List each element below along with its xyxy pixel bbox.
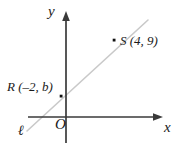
x-axis-label: x: [164, 120, 171, 135]
x-axis-arrowhead-icon: [153, 113, 163, 121]
y-axis-arrowhead-icon: [62, 11, 70, 21]
coordinate-plane-figure: y x O ℓ S (4, 9) R (–2, b): [0, 0, 180, 143]
point-label-s: S (4, 9): [120, 34, 158, 47]
point-marker-s: [113, 39, 116, 42]
line-l-label: ℓ: [18, 124, 24, 138]
figure-canvas: [0, 0, 180, 143]
origin-label: O: [55, 117, 66, 132]
point-marker-r: [60, 95, 63, 98]
y-axis-label: y: [48, 4, 55, 19]
point-label-r: R (–2, b): [7, 80, 53, 93]
